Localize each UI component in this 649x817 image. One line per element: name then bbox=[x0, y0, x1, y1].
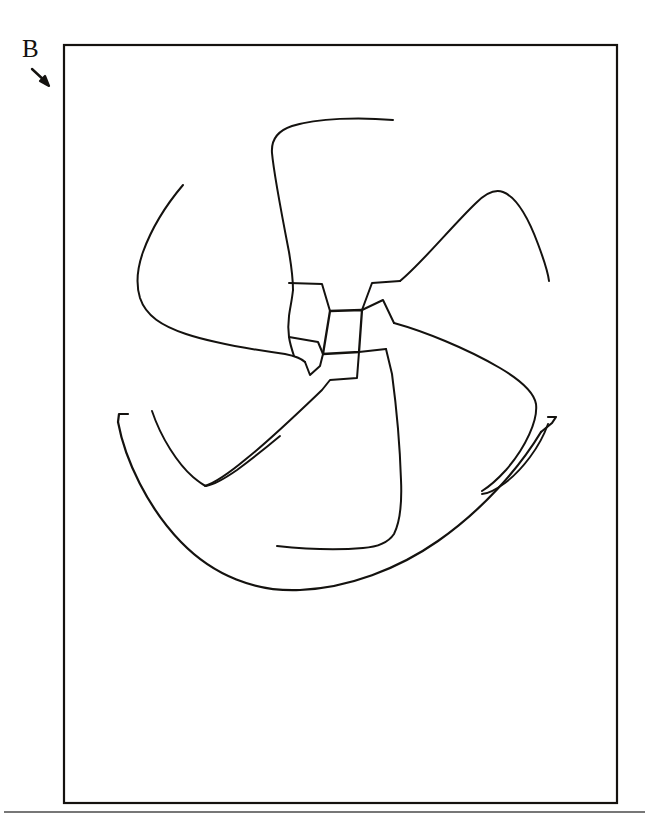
figure-drawing-canvas bbox=[0, 0, 649, 817]
arrow-down-right-icon bbox=[30, 66, 56, 92]
panel-label-b: B bbox=[22, 36, 39, 61]
canvas-background bbox=[0, 0, 649, 817]
figure-panel: B bbox=[0, 0, 649, 817]
